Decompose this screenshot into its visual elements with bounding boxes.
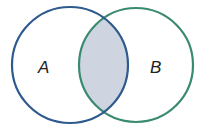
venn-canvas: A B <box>0 0 202 134</box>
set-b-label: B <box>150 58 161 77</box>
venn-diagram: A B <box>0 0 202 134</box>
set-a-label: A <box>37 58 49 77</box>
